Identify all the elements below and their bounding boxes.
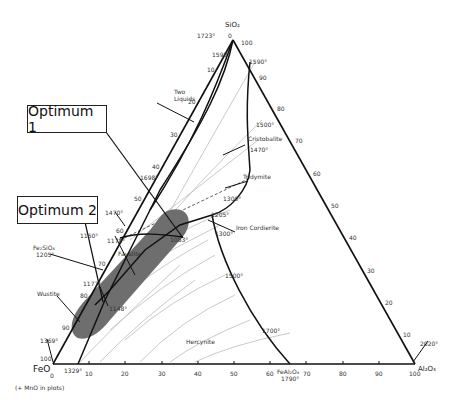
svg-text:50: 50 xyxy=(331,202,339,209)
optimum-1-callout: Optimum 1 xyxy=(27,105,107,133)
svg-text:40: 40 xyxy=(152,163,160,170)
svg-text:90: 90 xyxy=(375,370,383,377)
svg-text:100: 100 xyxy=(409,370,421,377)
svg-text:20: 20 xyxy=(385,299,393,306)
svg-text:30: 30 xyxy=(158,370,166,377)
svg-text:10: 10 xyxy=(403,331,411,338)
svg-text:40: 40 xyxy=(194,370,202,377)
temp-label: 1205° xyxy=(211,211,229,218)
tick-label: 0 xyxy=(228,32,232,39)
phase-label: Two xyxy=(173,88,186,95)
compound-label: Fe₂SiO₄ xyxy=(33,244,55,251)
svg-text:80: 80 xyxy=(80,292,88,299)
temp-label: 1500° xyxy=(256,121,274,128)
svg-text:80: 80 xyxy=(339,370,347,377)
svg-text:70: 70 xyxy=(295,137,303,144)
temp-label: 1300° xyxy=(223,195,241,202)
compound-label: FeAl₂O₄ xyxy=(277,368,300,375)
temp-label: 2020° xyxy=(420,340,438,347)
tick-label: 100 xyxy=(40,355,52,362)
phase-label: Hercynite xyxy=(186,338,215,346)
temp-label: 1500° xyxy=(225,272,243,279)
temp-label: 1083° xyxy=(170,236,188,243)
phase-label: Cristobalite xyxy=(248,135,283,142)
phase-label: Iron Cordierite xyxy=(236,224,279,231)
bottom-axis-numbers: 10 20 30 40 50 60 70 80 90 100 xyxy=(85,370,421,377)
temp-label: 1590° xyxy=(249,58,267,65)
temp-label: 1369° xyxy=(40,337,58,344)
phase-label: Wustite xyxy=(37,290,60,297)
svg-text:80: 80 xyxy=(277,105,285,112)
feo-label: FeO xyxy=(33,364,50,374)
svg-text:70: 70 xyxy=(303,370,311,377)
svg-text:60: 60 xyxy=(116,227,124,234)
svg-text:50: 50 xyxy=(134,195,142,202)
svg-text:50: 50 xyxy=(230,370,238,377)
temp-label: 1205° xyxy=(36,251,54,258)
temp-label: 1700° xyxy=(262,327,280,334)
temp-label: 1148° xyxy=(109,305,127,312)
temp-label: 1470° xyxy=(105,209,123,216)
temp-label: 1598° xyxy=(212,51,230,58)
temp-label: 1177° xyxy=(83,280,101,287)
temp-label: 1790° xyxy=(281,375,299,382)
tick-label: 100 xyxy=(241,39,253,46)
svg-text:90: 90 xyxy=(259,74,267,81)
svg-text:20: 20 xyxy=(121,370,129,377)
al2o3-label: Al₂O₃ xyxy=(418,365,436,373)
temp-label: 1150° xyxy=(80,232,98,239)
temp-label: 1698° xyxy=(140,174,158,181)
svg-text:70: 70 xyxy=(98,260,106,267)
svg-text:10: 10 xyxy=(85,370,93,377)
temp-label: 1178° xyxy=(107,237,125,244)
svg-text:30: 30 xyxy=(367,267,375,274)
temp-label: 1470° xyxy=(250,146,268,153)
svg-text:10: 10 xyxy=(207,66,215,73)
svg-text:90: 90 xyxy=(62,324,70,331)
mno-note: (+ MnO in plots) xyxy=(15,384,64,392)
svg-text:40: 40 xyxy=(349,234,357,241)
svg-text:60: 60 xyxy=(313,170,321,177)
optimum-region xyxy=(72,209,189,339)
temp-label: 1300° xyxy=(215,230,233,237)
temp-label: 1723° xyxy=(197,32,215,39)
sio2-label: SiO₂ xyxy=(225,21,240,29)
svg-text:20: 20 xyxy=(188,98,196,105)
svg-text:60: 60 xyxy=(266,370,274,377)
tick-label: 0 xyxy=(50,372,54,379)
temp-label: 1329° xyxy=(64,367,82,374)
right-axis-numbers: 90 80 70 60 50 40 30 20 10 xyxy=(259,74,411,338)
phase-label: Tridymite xyxy=(242,173,271,181)
optimum-2-callout: Optimum 2 xyxy=(17,196,98,224)
phase-label: Fayalite xyxy=(118,250,141,258)
svg-text:30: 30 xyxy=(170,131,178,138)
